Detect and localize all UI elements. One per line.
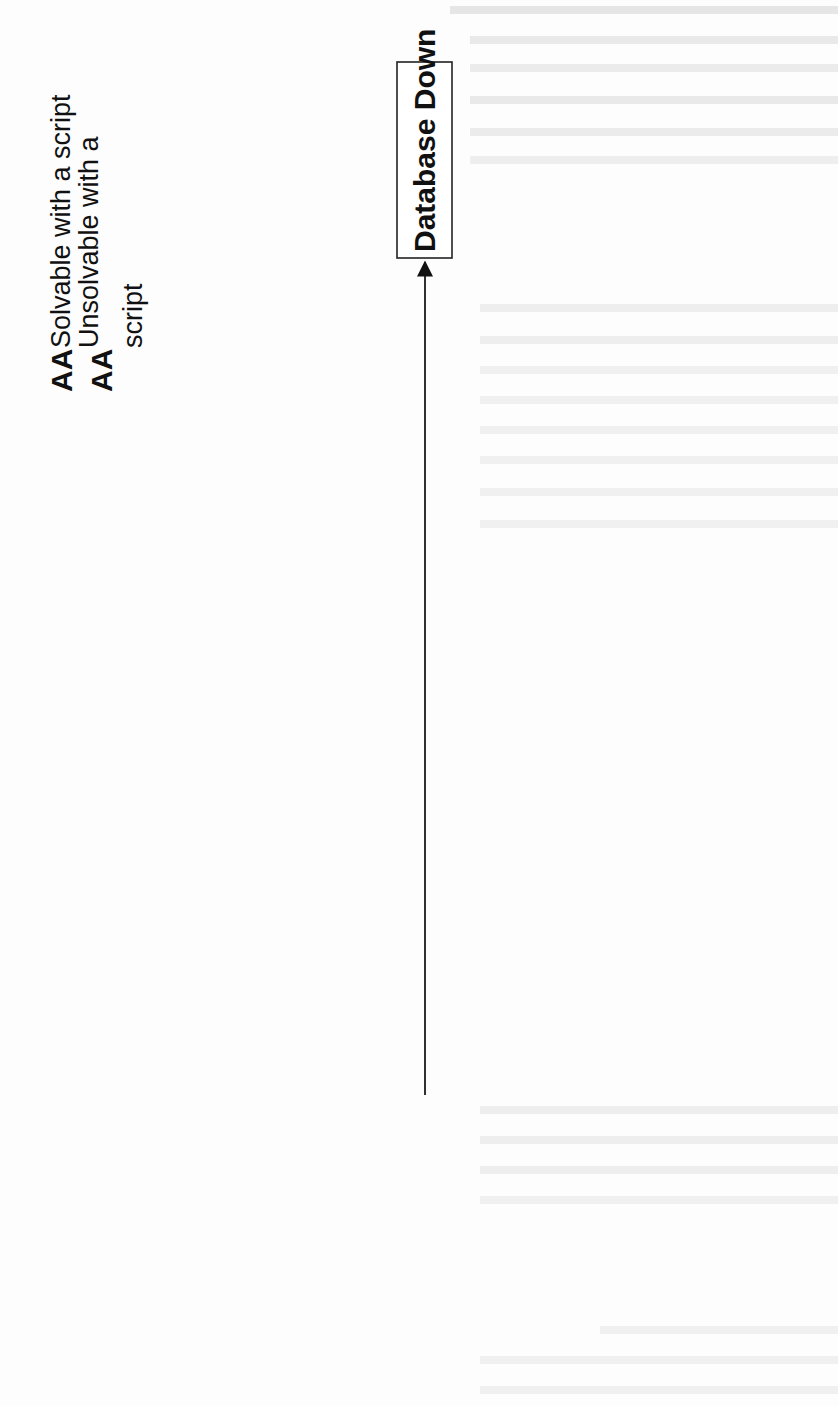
legend-text-unsolvable-line2: script [118,283,148,348]
legend-text-solvable: Solvable with a script [46,94,76,348]
fishbone-diagram: AA Solvable with a script AA Unsolvable … [0,0,838,1406]
legend-marker-unsolvable: AA [85,349,118,392]
legend-text-unsolvable: Unsolvable with a [74,135,104,348]
legend-item-unsolvable: AA Unsolvable with a script [74,135,148,392]
legend-marker-solvable: AA [45,349,78,392]
scanned-page: AA Solvable with a script AA Unsolvable … [0,0,838,1406]
effect-database-down: Database Down [397,29,452,258]
legend: AA Solvable with a script AA Unsolvable … [45,94,148,392]
effect-label: Database Down [408,29,441,252]
